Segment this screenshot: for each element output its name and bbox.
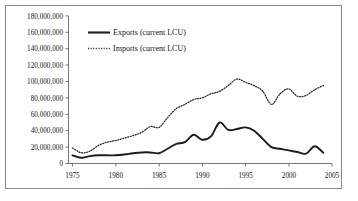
y-tick-label-120m: 120,000,000 [27, 62, 63, 70]
y-tick-label-60m: 60,000,000 [31, 111, 64, 119]
y-tick-label-140m: 140,000,000 [27, 45, 63, 53]
series-line-imports [73, 79, 324, 153]
x-axis-ticks [73, 164, 333, 167]
y-axis-ticks [66, 16, 69, 164]
x-tick-label-2005: 2005 [325, 172, 340, 180]
x-tick-label-2000: 2000 [282, 172, 297, 180]
y-tick-label-20m: 20,000,000 [31, 144, 64, 152]
x-tick-label-1995: 1995 [239, 172, 254, 180]
legend-label-imports: Imports (current LCU) [113, 44, 186, 53]
y-tick-label-160m: 160,000,000 [27, 29, 63, 37]
series-line-exports [73, 122, 324, 157]
y-tick-label-40m: 40,000,000 [31, 127, 64, 135]
legend-label-exports: Exports (current LCU) [113, 28, 186, 37]
x-tick-label-1985: 1985 [152, 172, 167, 180]
x-tick-label-1990: 1990 [195, 172, 210, 180]
y-tick-label-180m: 180,000,000 [27, 13, 63, 21]
trade-line-chart: 180,000,000 160,000,000 140,000,000 120,… [0, 0, 358, 201]
x-tick-label-1975: 1975 [65, 172, 80, 180]
y-tick-label-0: 0 [59, 160, 63, 168]
chart-legend: Exports (current LCU) Imports (current L… [88, 28, 186, 53]
y-tick-label-80m: 80,000,000 [31, 95, 64, 103]
y-tick-label-100m: 100,000,000 [27, 78, 63, 86]
x-tick-label-1980: 1980 [109, 172, 124, 180]
